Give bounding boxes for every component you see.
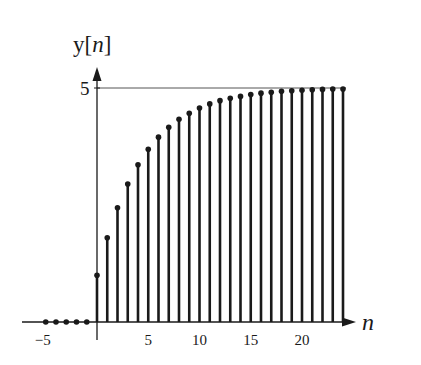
stem-marker	[145, 147, 151, 153]
stem-marker	[176, 117, 182, 123]
stem-marker	[227, 95, 233, 101]
stem-marker	[258, 90, 264, 96]
stem-marker	[115, 205, 121, 211]
stem-marker	[268, 89, 274, 95]
stem-marker	[238, 94, 244, 100]
y-axis-arrow-icon	[93, 67, 102, 81]
stem-marker	[156, 134, 162, 140]
x-tick-labels: −55101520	[35, 332, 310, 348]
stem-marker	[299, 88, 305, 94]
stem-marker	[104, 235, 110, 241]
x-tick-label: −5	[35, 332, 51, 348]
x-axis-label: n	[362, 309, 374, 335]
stem-marker	[135, 162, 141, 168]
x-tick-label: 15	[243, 332, 258, 348]
stem-marker	[320, 87, 326, 93]
stem-marker	[125, 181, 131, 187]
x-tick-label: 20	[295, 332, 310, 348]
y-tick-label: 5	[80, 78, 90, 99]
stem-marker	[289, 88, 295, 94]
stem-marker	[279, 88, 285, 94]
stem-marker	[166, 125, 172, 131]
stem-marker	[330, 86, 336, 92]
stem-marker	[217, 98, 223, 104]
x-tick-label: 10	[192, 332, 207, 348]
stem-series	[43, 86, 346, 325]
x-axis-arrow-icon	[342, 318, 356, 327]
y-axis-label: y[n]	[73, 32, 111, 57]
stem-marker	[309, 87, 315, 93]
x-tick-label: 5	[145, 332, 153, 348]
stem-marker	[197, 105, 203, 111]
stem-marker	[340, 86, 346, 92]
stem-marker	[186, 110, 192, 116]
stem-marker	[207, 101, 213, 107]
stem-plot: y[n] n −55101520 5	[0, 0, 421, 365]
stem-marker	[248, 92, 254, 98]
